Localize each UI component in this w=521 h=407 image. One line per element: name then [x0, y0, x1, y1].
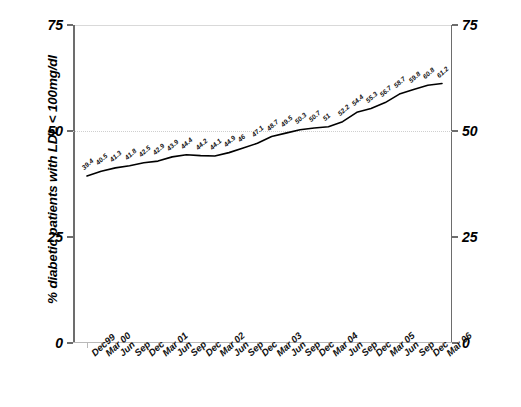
series-polyline — [87, 84, 442, 176]
y-tick-label-right-25: 25 — [462, 230, 478, 244]
data-series-line — [73, 25, 452, 343]
y-tick-label-left-75: 75 — [47, 18, 63, 32]
y-tick-label-left-25: 25 — [47, 230, 63, 244]
y-tick-right-25 — [452, 236, 458, 238]
chart-container: % diabetic patients with LDL < 100mg/dl … — [0, 0, 521, 407]
x-tick-0 — [87, 343, 88, 348]
y-axis-title: % diabetic patients with LDL < 100mg/dl — [45, 10, 60, 350]
y-tick-right-75 — [452, 24, 458, 26]
y-tick-label-left-50: 50 — [47, 124, 63, 138]
y-tick-right-50 — [452, 130, 458, 132]
y-tick-label-right-50: 50 — [462, 124, 478, 138]
y-tick-label-right-75: 75 — [462, 18, 478, 32]
y-tick-label-left-0: 0 — [55, 336, 63, 350]
plot-area: 7550250 7550250 Dec99Mar 00JunSepDecMar … — [73, 25, 452, 343]
